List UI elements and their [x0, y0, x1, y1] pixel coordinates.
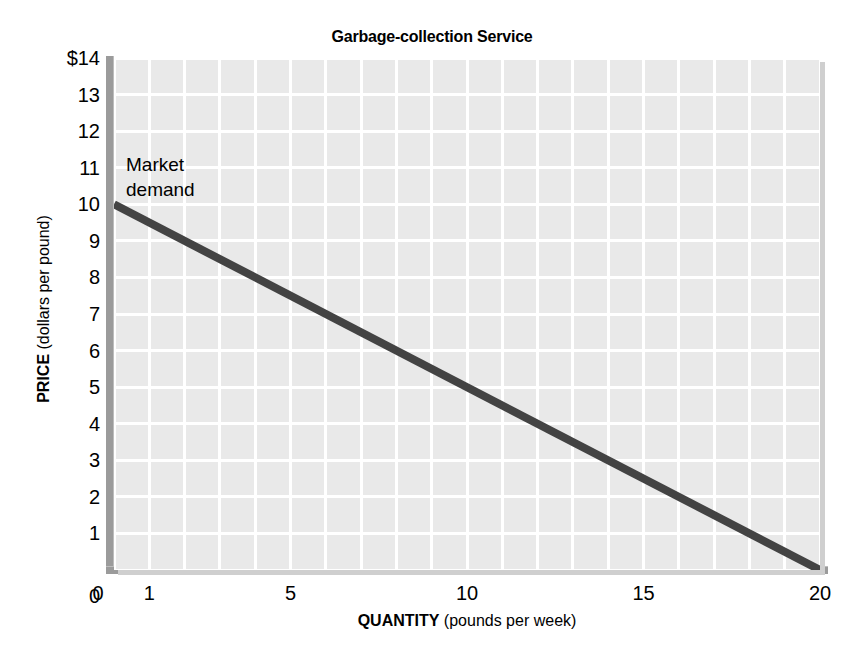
x-axis-tick-label: 20 [790, 583, 850, 603]
y-axis-tick-label: $14 [48, 48, 100, 68]
x-axis-title-rest: (pounds per week) [439, 612, 576, 629]
y-axis-tick-label: 7 [48, 304, 100, 324]
x-axis-tick-label: 5 [261, 583, 321, 603]
y-axis-tick-label: 12 [48, 121, 100, 141]
y-axis-title-bold: PRICE [35, 354, 52, 403]
plot-panel-shadow-right [820, 62, 825, 574]
market-demand-line [114, 204, 820, 570]
market-demand-annotation: Market demand [126, 152, 195, 202]
y-axis-tick-label: 4 [48, 414, 100, 434]
y-axis-tick-label: 2 [48, 487, 100, 507]
plot-area [114, 58, 820, 570]
x-axis-title: QUANTITY (pounds per week) [114, 612, 820, 630]
plot-frame [114, 58, 820, 570]
y-axis-tick-label: 6 [48, 341, 100, 361]
y-axis-tick-label: 5 [48, 377, 100, 397]
x-axis-tick-label: 15 [614, 583, 674, 603]
y-axis-tick-label: 3 [48, 450, 100, 470]
demand-line-layer [114, 58, 820, 570]
plot-panel-shadow-bottom [118, 570, 825, 575]
y-axis-tick-label: 13 [48, 85, 100, 105]
y-axis-tick-label: 1 [48, 523, 100, 543]
page-title: Garbage-collection Service [0, 28, 864, 46]
y-axis-tick-label: 10 [48, 194, 100, 214]
x-axis-title-bold: QUANTITY [358, 612, 440, 629]
y-axis-tick-label: 8 [48, 267, 100, 287]
y-axis-title: PRICE (dollars per pound) [35, 179, 53, 439]
y-axis-bar [106, 56, 114, 574]
y-axis-tick-label: 9 [48, 231, 100, 251]
y-axis-tick-label: 11 [48, 158, 100, 178]
y-axis-title-rest: (dollars per pound) [35, 215, 52, 354]
x-axis-tick-label: 1 [119, 583, 179, 603]
x-axis-tick-label: 10 [437, 583, 497, 603]
